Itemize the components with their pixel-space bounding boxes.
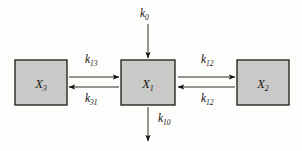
compartment-x1: X1 [121,60,175,105]
compartmental-model-diagram: X3 X1 X2 k0 k13 k31 k12 [0,0,302,151]
flow-k0: k0 [140,7,149,58]
compartment-x2: X2 [237,60,289,105]
flow-k10: k10 [148,107,171,141]
flow-k12-backward-label: k12 [201,92,214,107]
compartment-x3: X3 [15,60,67,105]
flow-k31-label: k31 [85,92,98,107]
flow-k12-backward: k12 [178,87,235,107]
flow-k10-label: k10 [158,112,171,127]
flow-k13: k13 [69,53,119,77]
flow-k12-forward: k12 [178,53,235,77]
flow-k31: k31 [69,87,119,107]
flow-k0-label: k0 [140,7,149,22]
flow-k12-forward-label: k12 [201,53,214,68]
flow-k13-label: k13 [85,53,98,68]
